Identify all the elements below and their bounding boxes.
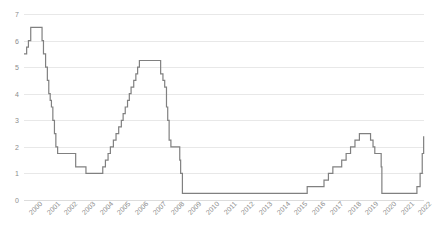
y-tick-label-1: 1	[15, 170, 19, 177]
x-tick-label-2009: 2009	[187, 200, 203, 216]
y-tick-label-0: 0	[15, 197, 19, 204]
x-tick-label-2022: 2022	[417, 200, 433, 216]
x-tick-label-2012: 2012	[240, 200, 256, 216]
x-tick-label-2006: 2006	[134, 200, 150, 216]
x-tick-label-2021: 2021	[399, 200, 415, 216]
x-tick-label-2014: 2014	[275, 200, 291, 216]
y-tick-label-5: 5	[15, 64, 19, 71]
x-tick-label-2015: 2015	[293, 200, 309, 216]
series-polyline	[24, 27, 424, 193]
x-tick-label-2002: 2002	[63, 200, 79, 216]
x-tick-label-2017: 2017	[328, 200, 344, 216]
y-tick-label-4: 4	[15, 90, 19, 97]
x-tick-label-2016: 2016	[311, 200, 327, 216]
x-tick-label-2000: 2000	[28, 200, 44, 216]
x-tick-label-2004: 2004	[98, 200, 114, 216]
x-tick-label-2008: 2008	[169, 200, 185, 216]
plot-area: 01234567	[24, 14, 424, 200]
y-tick-label-7: 7	[15, 11, 19, 18]
x-tick-label-2020: 2020	[382, 200, 398, 216]
x-tick-label-2005: 2005	[116, 200, 132, 216]
y-tick-label-3: 3	[15, 117, 19, 124]
x-tick-label-2011: 2011	[222, 200, 238, 216]
series-line-chart	[24, 14, 424, 200]
x-tick-label-2013: 2013	[258, 200, 274, 216]
x-tick-label-2001: 2001	[45, 200, 61, 216]
x-tick-label-2018: 2018	[346, 200, 362, 216]
x-tick-label-2019: 2019	[364, 200, 380, 216]
x-tick-label-2010: 2010	[205, 200, 221, 216]
x-axis-tick-labels: 2000200120022003200420052006200720082009…	[24, 200, 424, 236]
y-tick-label-6: 6	[15, 37, 19, 44]
x-tick-label-2003: 2003	[81, 200, 97, 216]
x-tick-label-2007: 2007	[151, 200, 167, 216]
y-tick-label-2: 2	[15, 143, 19, 150]
